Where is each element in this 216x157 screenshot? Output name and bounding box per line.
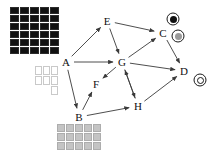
graph-edge-g-to-f	[103, 67, 116, 78]
dark-token-grid	[10, 7, 59, 54]
graph-node-f[interactable]: F	[93, 79, 99, 90]
light-token-grid-cell	[51, 76, 58, 85]
dark-token-grid-cell	[40, 7, 49, 14]
dark-token-grid-cell	[10, 15, 19, 22]
dark-token-grid-cell	[20, 15, 29, 22]
dark-token-grid-cell	[50, 47, 59, 54]
graph-edge-e-to-c	[115, 23, 154, 31]
dark-token-grid-cell	[40, 39, 49, 46]
light-token-grid-cell	[35, 76, 42, 85]
light-token-grid-cell	[35, 66, 42, 75]
gray-token-grid-cell	[66, 124, 74, 132]
gray-token-grid-cell	[84, 133, 92, 141]
graph-edge-c-to-d	[167, 40, 180, 63]
light-token-grid-cell	[51, 86, 58, 95]
graph-edge-e-to-g	[110, 29, 119, 54]
dark-token-grid-cell	[20, 7, 29, 14]
gray-token-grid-cell	[57, 133, 65, 141]
light-token-grid-cell	[43, 66, 50, 75]
marker-filled-gray-core	[175, 33, 182, 40]
dark-token-grid-cell	[10, 31, 19, 38]
gray-token-grid-cell	[84, 142, 92, 150]
dark-token-grid-cell	[50, 15, 59, 22]
light-token-grid-gap	[43, 86, 50, 95]
dark-token-grid-cell	[20, 31, 29, 38]
dark-token-grid-cell	[30, 15, 39, 22]
gray-token-grid-cell	[93, 124, 101, 132]
graph-edge-h-to-g	[125, 70, 135, 98]
marker-filled-black	[167, 13, 180, 26]
gray-token-grid	[57, 124, 101, 150]
dark-token-grid-cell	[10, 39, 19, 46]
marker-empty-ring	[194, 74, 207, 87]
gray-token-grid-cell	[66, 142, 74, 150]
graph-edge-a-to-e	[72, 27, 101, 56]
graph-edge-b-to-f	[83, 92, 92, 110]
dark-token-grid-cell	[40, 47, 49, 54]
dark-token-grid-cell	[30, 23, 39, 30]
gray-token-grid-cell	[93, 142, 101, 150]
gray-token-grid-cell	[75, 142, 83, 150]
dark-token-grid-cell	[10, 23, 19, 30]
gray-token-grid-cell	[93, 133, 101, 141]
dark-token-grid-cell	[50, 39, 59, 46]
graph-edge-b-to-h	[87, 108, 129, 116]
dark-token-grid-cell	[40, 15, 49, 22]
marker-empty-ring-core	[197, 77, 204, 84]
dark-token-grid-cell	[50, 23, 59, 30]
graph-edge-g-to-d	[130, 63, 175, 70]
graph-node-e[interactable]: E	[104, 16, 111, 27]
dark-token-grid-cell	[10, 7, 19, 14]
graph-node-a[interactable]: A	[62, 57, 70, 68]
gray-token-grid-cell	[75, 133, 83, 141]
dark-token-grid-cell	[20, 23, 29, 30]
dark-token-grid-cell	[30, 7, 39, 14]
marker-filled-black-core	[170, 16, 177, 23]
graph-node-d[interactable]: D	[180, 66, 188, 77]
gray-token-grid-cell	[57, 142, 65, 150]
light-token-grid	[35, 66, 58, 95]
diagram-canvas: ABCDEFGH	[0, 0, 216, 157]
dark-token-grid-cell	[50, 31, 59, 38]
dark-token-grid-cell	[10, 47, 19, 54]
light-token-grid-cell	[43, 76, 50, 85]
gray-token-grid-cell	[75, 124, 83, 132]
marker-filled-gray	[172, 30, 185, 43]
dark-token-grid-cell	[50, 7, 59, 14]
graph-edge-a-to-b	[68, 70, 77, 108]
dark-token-grid-cell	[30, 47, 39, 54]
light-token-grid-cell	[51, 66, 58, 75]
dark-token-grid-cell	[20, 47, 29, 54]
graph-node-g[interactable]: G	[118, 57, 126, 68]
dark-token-grid-cell	[20, 39, 29, 46]
light-token-grid-gap	[35, 86, 42, 95]
graph-edge-g-to-c	[129, 38, 156, 57]
dark-token-grid-cell	[30, 31, 39, 38]
dark-token-grid-cell	[40, 31, 49, 38]
graph-edge-h-to-d	[144, 76, 176, 101]
gray-token-grid-cell	[66, 133, 74, 141]
gray-token-grid-cell	[84, 124, 92, 132]
graph-node-h[interactable]: H	[134, 101, 142, 112]
dark-token-grid-cell	[30, 39, 39, 46]
gray-token-grid-cell	[57, 124, 65, 132]
graph-node-b[interactable]: B	[75, 112, 82, 123]
graph-node-c[interactable]: C	[159, 28, 166, 39]
dark-token-grid-cell	[40, 23, 49, 30]
